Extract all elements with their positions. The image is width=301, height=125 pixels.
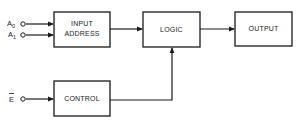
a0-label: A0 bbox=[7, 19, 15, 29]
input-address-block: INPUT ADDRESS bbox=[54, 12, 110, 47]
input-address-label-line2: ADDRESS bbox=[64, 30, 99, 37]
e-bar-label: E bbox=[9, 95, 14, 104]
a0-pin bbox=[21, 22, 25, 26]
control-label: CONTROL bbox=[64, 95, 100, 102]
input-address-label-line1: INPUT bbox=[71, 20, 94, 27]
logic-block: LOGIC bbox=[143, 12, 200, 47]
control-block: CONTROL bbox=[54, 81, 110, 116]
a1-pin bbox=[21, 33, 25, 37]
e-bar-pin bbox=[21, 97, 25, 101]
a1-label: A1 bbox=[8, 30, 16, 40]
output-block: OUTPUT bbox=[235, 12, 292, 46]
control-to-logic-arrow bbox=[110, 48, 172, 100]
logic-label: LOGIC bbox=[160, 26, 183, 33]
block-diagram: A0 A1 E INPUT ADDRESS LOGIC OUTPUT CONTR… bbox=[0, 0, 301, 125]
output-label: OUTPUT bbox=[249, 25, 280, 32]
